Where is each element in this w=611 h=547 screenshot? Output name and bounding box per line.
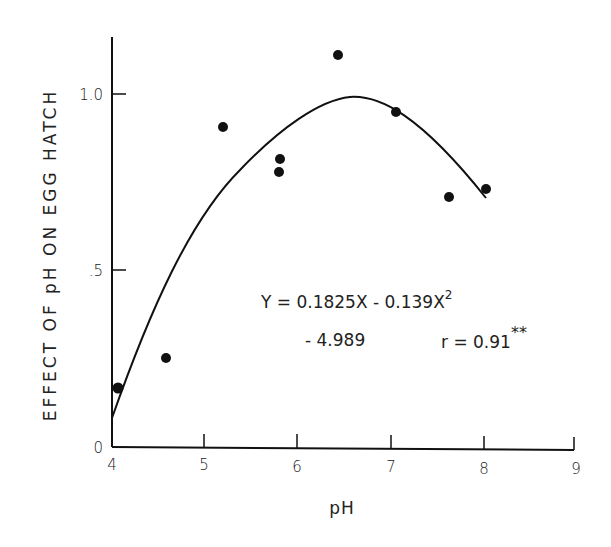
data-point <box>275 154 285 164</box>
x-axis-title: pH <box>329 498 355 518</box>
y-tick-label-05: .5 <box>89 262 103 280</box>
equation-main: Y = 0.1825X - 0.139X <box>260 292 445 312</box>
y-axis-title: EFFECT OF pH ON EGG HATCH <box>40 89 60 421</box>
x-axis <box>112 447 574 450</box>
r-value-text: r = 0.91 <box>441 332 511 352</box>
data-point <box>113 383 124 394</box>
data-point <box>274 167 284 177</box>
x-tick-label-7: 7 <box>386 458 396 476</box>
data-point <box>333 50 343 60</box>
equation-line-2: - 4.989 <box>305 330 365 350</box>
significance-stars: ** <box>511 323 527 342</box>
data-point <box>161 353 171 363</box>
data-point <box>391 107 401 117</box>
data-point <box>218 122 228 132</box>
data-point <box>481 184 491 194</box>
y-tick-label-1: 1.0 <box>79 86 103 104</box>
equation-line-1: Y = 0.1825X - 0.139X2 <box>260 288 452 312</box>
x-tick-label-5: 5 <box>199 456 209 474</box>
data-point <box>444 192 454 202</box>
r-value: r = 0.91** <box>441 323 527 352</box>
x-tick-label-6: 6 <box>292 458 302 476</box>
fit-curve <box>112 97 486 418</box>
x-tick-label-8: 8 <box>479 460 489 478</box>
x-tick-label-9: 9 <box>571 460 581 478</box>
chart: 1.0 .5 0 4 5 6 7 8 9 pH EFFECT OF pH ON … <box>0 0 611 547</box>
equation-exponent: 2 <box>445 288 453 302</box>
data-points <box>113 50 492 394</box>
y-ticks <box>112 94 126 270</box>
y-tick-label-0: 0 <box>93 439 103 457</box>
x-tick-label-4: 4 <box>107 456 117 474</box>
